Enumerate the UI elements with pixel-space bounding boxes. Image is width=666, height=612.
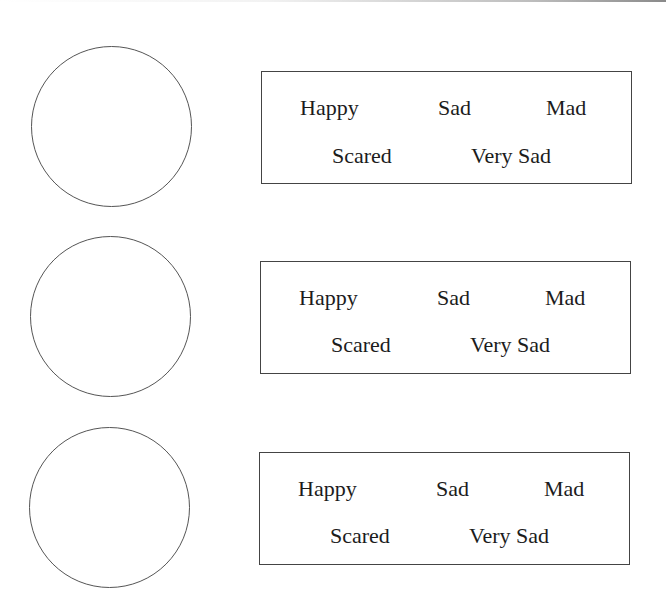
option-mad[interactable]: Mad [545, 287, 585, 309]
option-sad[interactable]: Sad [436, 478, 469, 500]
face-circle-1[interactable] [31, 46, 192, 207]
emotion-options-box-1: Happy Sad Mad Scared Very Sad [261, 71, 632, 184]
option-very-sad[interactable]: Very Sad [469, 525, 549, 547]
option-scared[interactable]: Scared [330, 525, 390, 547]
option-mad[interactable]: Mad [544, 478, 584, 500]
face-circle-2[interactable] [30, 236, 191, 397]
option-very-sad[interactable]: Very Sad [470, 334, 550, 356]
option-very-sad[interactable]: Very Sad [471, 145, 551, 167]
option-sad[interactable]: Sad [438, 97, 471, 119]
emotion-options-box-3: Happy Sad Mad Scared Very Sad [259, 452, 630, 565]
option-scared[interactable]: Scared [331, 334, 391, 356]
emotion-options-box-2: Happy Sad Mad Scared Very Sad [260, 261, 631, 374]
option-sad[interactable]: Sad [437, 287, 470, 309]
option-happy[interactable]: Happy [298, 478, 357, 500]
option-scared[interactable]: Scared [332, 145, 392, 167]
option-mad[interactable]: Mad [546, 97, 586, 119]
face-circle-3[interactable] [29, 427, 190, 588]
option-happy[interactable]: Happy [300, 97, 359, 119]
option-happy[interactable]: Happy [299, 287, 358, 309]
scan-edge [0, 0, 666, 2]
